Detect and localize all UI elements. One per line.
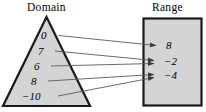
domain-value-7: 7 xyxy=(38,45,44,57)
range-value-8: 8 xyxy=(166,39,172,51)
mapping-diagram: Domain Range 0 7 6 8 −10 8 −2 −4 xyxy=(0,0,206,112)
arrow-0-to-8 xyxy=(59,36,156,46)
domain-value-6: 6 xyxy=(34,60,40,72)
domain-value-0: 0 xyxy=(41,29,47,41)
domain-value-8: 8 xyxy=(31,75,37,87)
range-value-neg4: −4 xyxy=(164,69,177,81)
arrow-7-to-neg2 xyxy=(55,51,154,61)
range-value-neg2: −2 xyxy=(164,55,177,67)
domain-value-neg10: −10 xyxy=(22,90,40,102)
